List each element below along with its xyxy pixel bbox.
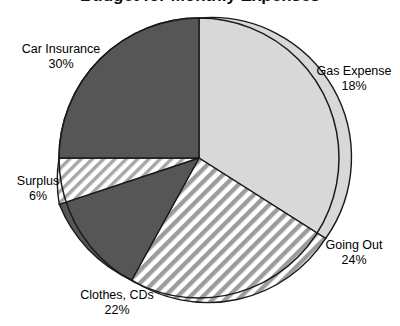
pie-label-going-out-name: Going Out: [312, 238, 396, 253]
pie-label-gas-expense: Gas Expense 18%: [310, 64, 398, 94]
pie-label-surplus-name: Surplus: [2, 174, 74, 189]
pie-label-going-out: Going Out 24%: [312, 238, 396, 268]
pie-label-clothes-cds: Clothes, CDs 22%: [58, 288, 176, 318]
pie-label-car-insurance-value: 30%: [6, 57, 116, 72]
pie-chart: Budget for Monthly Expenses Car Insuranc…: [0, 0, 400, 326]
pie-label-gas-expense-name: Gas Expense: [310, 64, 398, 79]
pie-label-surplus: Surplus 6%: [2, 174, 74, 204]
pie-label-car-insurance: Car Insurance 30%: [6, 42, 116, 72]
pie-label-surplus-value: 6%: [2, 189, 74, 204]
pie-label-gas-expense-value: 18%: [310, 79, 398, 94]
pie-label-going-out-value: 24%: [312, 253, 396, 268]
pie-label-clothes-cds-name: Clothes, CDs: [58, 288, 176, 303]
pie-label-car-insurance-name: Car Insurance: [6, 42, 116, 57]
pie-label-clothes-cds-value: 22%: [58, 303, 176, 318]
pie-slice-car-insurance: [59, 18, 199, 158]
